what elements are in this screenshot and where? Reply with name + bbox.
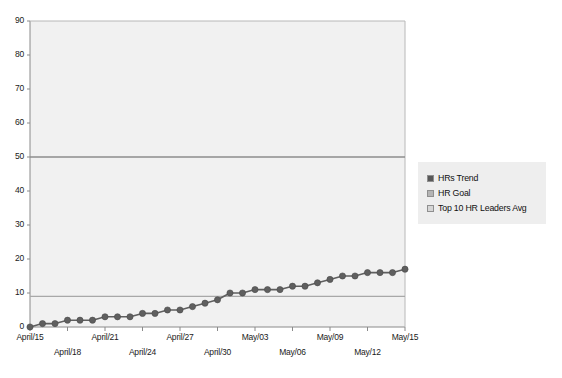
x-tick-label: April/27 (166, 332, 193, 342)
data-point-marker (402, 266, 408, 272)
y-tick-label: 20 (2, 254, 24, 263)
data-point-marker (177, 307, 183, 313)
legend-label: HRs Trend (438, 173, 478, 183)
chart-legend: HRs TrendHR GoalTop 10 HR Leaders Avg (418, 162, 546, 224)
data-point-marker (352, 273, 358, 279)
data-point-marker (252, 287, 258, 293)
data-point-marker (77, 317, 83, 323)
legend-entry[interactable]: HRs Trend (427, 171, 538, 185)
data-point-marker (164, 307, 170, 313)
data-point-marker (139, 310, 145, 316)
data-point-marker (277, 287, 283, 293)
x-tick-label: April/24 (129, 347, 156, 357)
legend-swatch-icon (427, 205, 434, 212)
data-point-marker (327, 276, 333, 282)
x-tick-label: May/12 (354, 347, 381, 357)
y-tick-label: 0 (2, 322, 24, 331)
data-point-marker (102, 314, 108, 320)
data-point-marker (377, 270, 383, 276)
legend-swatch-icon (427, 190, 434, 197)
x-tick-label: April/30 (204, 347, 231, 357)
y-tick-label: 30 (2, 220, 24, 229)
x-tick-marks (30, 327, 405, 331)
y-tick-label: 90 (2, 16, 24, 25)
data-point-marker (214, 297, 220, 303)
data-point-marker (264, 287, 270, 293)
x-tick-label: May/03 (242, 332, 269, 342)
legend-entry[interactable]: Top 10 HR Leaders Avg (427, 201, 538, 215)
x-tick-label: May/06 (279, 347, 306, 357)
y-tick-label: 60 (2, 118, 24, 127)
data-point-marker (364, 270, 370, 276)
x-tick-label: May/09 (317, 332, 344, 342)
data-point-marker (202, 300, 208, 306)
data-point-marker (64, 317, 70, 323)
x-tick-label: April/18 (54, 347, 81, 357)
x-tick-label: April/15 (16, 332, 43, 342)
legend-entry[interactable]: HR Goal (427, 186, 538, 200)
y-tick-label: 40 (2, 186, 24, 195)
data-point-marker (289, 283, 295, 289)
chart-container: 0102030405060708090 April/15April/18Apri… (0, 0, 562, 378)
data-point-marker (189, 304, 195, 310)
data-point-marker (239, 290, 245, 296)
y-tick-label: 10 (2, 288, 24, 297)
plot-background (30, 21, 405, 327)
x-tick-label: April/21 (91, 332, 118, 342)
y-tick-label: 80 (2, 50, 24, 59)
y-tick-label: 50 (2, 152, 24, 161)
x-tick-label: May/15 (392, 332, 419, 342)
data-point-marker (314, 280, 320, 286)
data-point-marker (27, 324, 33, 330)
data-point-marker (52, 321, 58, 327)
y-tick-label: 70 (2, 84, 24, 93)
data-point-marker (114, 314, 120, 320)
data-point-marker (39, 321, 45, 327)
data-point-marker (152, 310, 158, 316)
data-point-marker (127, 314, 133, 320)
data-point-marker (339, 273, 345, 279)
legend-label: Top 10 HR Leaders Avg (438, 203, 527, 213)
data-point-marker (227, 290, 233, 296)
legend-swatch-icon (427, 175, 434, 182)
legend-label: HR Goal (438, 188, 470, 198)
data-point-marker (389, 270, 395, 276)
data-point-marker (302, 283, 308, 289)
data-point-marker (89, 317, 95, 323)
